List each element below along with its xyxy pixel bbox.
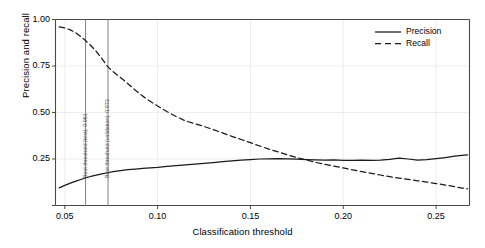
series-curve-precision (59, 155, 467, 188)
legend-label-recall: Recall (406, 38, 430, 48)
x-tick-label: 0.10 (145, 211, 171, 221)
y-tick-label: 0.25 (16, 153, 50, 163)
x-tick-label: 0.15 (237, 211, 263, 221)
x-axis-title: Classification threshold (0, 226, 485, 237)
precision-recall-threshold-chart: Classification threshold Precision and r… (0, 0, 485, 248)
x-tick-label: 0.25 (423, 211, 449, 221)
series-curves (59, 27, 467, 189)
y-tick-label: 0.50 (16, 107, 50, 117)
x-tick-label: 0.05 (52, 211, 78, 221)
y-tick-label: 0.75 (16, 60, 50, 70)
y-tick-label: 1.00 (16, 14, 50, 24)
legend-sample-lines (375, 32, 401, 44)
x-tick-label: 0.20 (330, 211, 356, 221)
best-threshold-test-label: Best threshold (test): 0.061 (82, 113, 88, 178)
series-curve-recall (59, 27, 467, 189)
legend-label-precision: Precision (406, 26, 441, 36)
best-threshold-validation-label: Best threshold (validation): 0.073 (104, 99, 110, 178)
